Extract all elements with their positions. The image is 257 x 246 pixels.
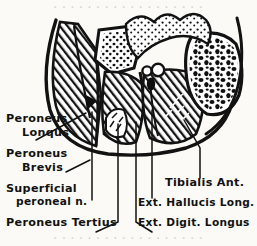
label-peroneus-longus: Peroneus Lonqus (6, 112, 69, 139)
label-peroneus-brevis: Peroneus Brevis (6, 147, 68, 174)
label-tibialis-anterior: Tibialis Ant. (165, 176, 244, 189)
label-peroneus-longus-line1: Peroneus (6, 112, 68, 125)
label-superficial-peroneal-nerve-line1: Superficial (6, 182, 77, 195)
anatomical-figure-page: · · · · · · · · · · · · · · · · · · (0, 0, 257, 246)
anterior-tibial-artery (147, 78, 155, 91)
label-peroneus-tertius: Peroneus Tertius (6, 216, 117, 229)
extensor-digitorum-compartment (102, 72, 143, 144)
label-peroneus-longus-line2: Lonqus (22, 126, 69, 139)
label-superficial-peroneal-nerve-line2: peroneal n. (16, 195, 87, 207)
leader-peroneus-brevis (66, 160, 90, 172)
label-superficial-peroneal-nerve: Superficial peroneal n. (6, 182, 87, 207)
label-peroneus-brevis-line2: Brevis (22, 161, 63, 174)
leg-cross-section-diagram: Peroneus Lonqus Peroneus Brevis Superfic… (0, 0, 257, 246)
label-ext-hallucis-longus: Ext. Hallucis Long. (138, 196, 254, 208)
label-ext-digitorum-longus: Ext. Digit. Longus (138, 216, 250, 228)
label-peroneus-brevis-line1: Peroneus (6, 147, 68, 160)
